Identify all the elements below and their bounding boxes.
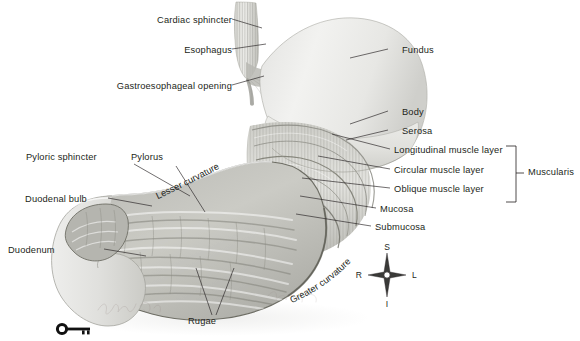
compass-right-label: R bbox=[356, 270, 362, 280]
label-circular-muscle-layer: Circular muscle layer bbox=[394, 165, 484, 176]
figure-canvas: Lesser curvature Greater curvature S I R… bbox=[0, 0, 580, 341]
key-icon-shape bbox=[57, 324, 90, 334]
label-muscularis: Muscularis bbox=[528, 167, 574, 178]
label-rugae: Rugae bbox=[188, 316, 216, 327]
label-serosa: Serosa bbox=[402, 126, 432, 137]
compass-superior-label: S bbox=[384, 242, 390, 252]
label-pyloric-sphincter: Pyloric sphincter bbox=[26, 152, 97, 163]
orientation-compass-shape bbox=[368, 253, 406, 297]
label-body: Body bbox=[402, 107, 424, 118]
label-cardiac-sphincter: Cardiac sphincter bbox=[48, 15, 232, 26]
label-oblique-muscle-layer: Oblique muscle layer bbox=[394, 184, 484, 195]
muscularis-bracket-shape bbox=[506, 146, 524, 202]
label-longitudinal-muscle-layer: Longitudinal muscle layer bbox=[394, 145, 503, 156]
label-mucosa: Mucosa bbox=[380, 204, 413, 215]
label-fundus: Fundus bbox=[402, 45, 434, 56]
label-pylorus: Pylorus bbox=[131, 152, 163, 163]
label-submucosa: Submucosa bbox=[375, 222, 425, 233]
label-duodenum: Duodenum bbox=[8, 245, 55, 256]
compass-left-label: L bbox=[412, 270, 417, 280]
compass-inferior-label: I bbox=[386, 299, 388, 309]
label-duodenal-bulb: Duodenal bulb bbox=[8, 194, 104, 205]
label-esophagus: Esophagus bbox=[48, 45, 232, 56]
label-gastroesophageal-opening: Gastroesophageal opening bbox=[48, 81, 232, 92]
